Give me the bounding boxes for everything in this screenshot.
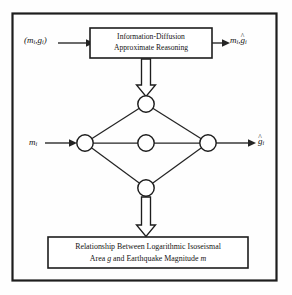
m-input-arrow [45,139,77,147]
node-right [200,135,216,151]
m-input-sub: i [36,140,38,147]
node-top [138,96,154,112]
arrowhead-right-icon [222,39,230,47]
edge-left-bottom [85,143,146,188]
hat-accent-icon: ^ [241,33,245,41]
hollow-arrow-down-top [137,59,156,97]
arrowhead-right-icon [69,139,77,147]
edge-left-top [85,104,146,143]
edge-bottom-right [146,143,208,188]
label-g-output: ^gi [258,137,264,147]
node-bottom [138,180,154,196]
edge-top-right [146,104,208,143]
caption-line-1: Relationship Between Logarithmic Isoseis… [75,242,222,251]
label-output-pair: mi,^gi [230,36,247,46]
input-arrow [58,39,94,47]
figure-root: Information-Diffusion Approximate Reason… [0,0,292,295]
hat-accent-icon: ^ [258,134,262,142]
hollow-arrow-down-bottom [137,197,156,237]
paren-close: ) [44,35,47,45]
output-g-sub: i [245,38,247,45]
output-arrow [212,39,230,47]
g-output-hatted: ^g [258,137,263,146]
caption-line-2-middle: and Earthquake Magnitude [111,253,200,262]
caption-line-2: Area g and Earthquake Magnitude m [90,253,207,262]
node-left [77,135,93,151]
output-g-hatted: ^g [240,36,245,45]
g-output-arrow [216,139,256,147]
label-input-pair: (mi,gi) [24,36,47,46]
node-center [138,135,154,151]
caption-line-2-italic-m: m [200,253,206,262]
top-box-line-2: Approximate Reasoning [114,43,188,52]
top-box-line-1: Information-Diffusion [117,32,185,41]
label-m-input: mi [29,138,37,148]
caption-line-2-prefix: Area [90,253,107,262]
arrowhead-right-icon [248,139,256,147]
